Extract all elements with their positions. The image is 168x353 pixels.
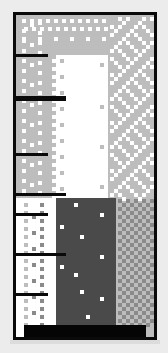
dither-pixel [22, 19, 26, 23]
dither-pixel [114, 173, 118, 177]
dither-pixel [52, 159, 56, 163]
dither-pixel [154, 53, 157, 57]
dither-pixel [110, 177, 114, 181]
dither-pixel [40, 227, 44, 231]
dither-pixel [154, 259, 157, 263]
dither-pixel [56, 27, 60, 31]
dither-pixel [114, 125, 118, 129]
dither-pixel [154, 21, 157, 25]
dither-pixel [94, 19, 98, 23]
dither-pixel [22, 119, 26, 123]
dither-pixel [64, 27, 68, 31]
dither-pixel [60, 107, 64, 111]
dither-pixel [154, 299, 157, 303]
sparkle-pixel [80, 235, 84, 239]
dither-pixel [154, 85, 157, 89]
dither-pixel [126, 65, 130, 69]
dither-pixel [146, 45, 150, 49]
dither-pixel [154, 291, 157, 295]
dither-pixel [118, 169, 122, 173]
dither-pixel [86, 19, 90, 23]
dither-pixel [40, 275, 44, 279]
dither-pixel [154, 37, 157, 41]
dither-pixel [40, 299, 44, 303]
dither-pixel [38, 81, 42, 85]
dither-pixel [38, 61, 42, 65]
dither-pixel [38, 19, 42, 23]
dither-pixel [142, 49, 146, 53]
dither-pixel [150, 89, 154, 93]
dither-pixel [52, 63, 56, 67]
dither-pixel [46, 19, 50, 23]
dither-pixel [52, 183, 56, 187]
dither-pixel [118, 41, 122, 45]
dither-pixel [118, 89, 122, 93]
dither-pixel [126, 161, 130, 165]
dither-pixel [122, 117, 126, 121]
dither-pixel [60, 155, 64, 159]
dither-pixel [134, 25, 138, 29]
dither-pixel [110, 49, 114, 53]
dither-pixel [52, 119, 56, 123]
dither-pixel [80, 27, 84, 31]
dither-pixel [30, 123, 34, 127]
dither-pixel [22, 79, 26, 83]
dither-pixel [126, 113, 130, 117]
dither-pixel [138, 149, 142, 153]
dither-pixel [24, 283, 28, 287]
dither-pixel [38, 141, 42, 145]
dither-pixel [60, 91, 64, 95]
dither-pixel [150, 41, 154, 45]
dither-pixel [154, 307, 157, 311]
dither-pixel [30, 63, 34, 67]
dither-pixel [38, 41, 42, 45]
dither-pixel [86, 37, 90, 41]
dither-pixel [52, 143, 56, 147]
dither-pixel [40, 259, 44, 263]
dither-pixel [52, 151, 56, 155]
dither-pixel [38, 101, 42, 105]
dither-pixel [54, 19, 58, 23]
dither-pixel [126, 17, 130, 21]
dither-pixel [146, 141, 150, 145]
dither-pixel [52, 167, 56, 171]
dither-pixel [154, 117, 157, 121]
dither-pixel [32, 231, 36, 235]
dither-pixel [60, 123, 64, 127]
dither-pixel [40, 235, 44, 239]
dither-pixel [32, 279, 36, 283]
dither-pixel [24, 267, 28, 271]
dither-pixel [38, 91, 42, 95]
dither-pixel [24, 259, 28, 263]
dither-pixel [102, 19, 106, 23]
dither-pixel [150, 137, 154, 141]
dither-pixel [22, 139, 26, 143]
dither-pixel [118, 137, 122, 141]
dither-pixel [134, 153, 138, 157]
dither-pixel [134, 73, 138, 77]
dither-pixel [154, 251, 157, 255]
sparkle-pixel [100, 297, 104, 301]
dither-pixel [30, 183, 34, 187]
ledge-3 [16, 153, 48, 156]
dither-pixel [40, 219, 44, 223]
dither-pixel [154, 275, 157, 279]
game-well [13, 12, 157, 340]
dither-pixel [60, 75, 64, 79]
dither-pixel [38, 181, 42, 185]
dither-pixel [154, 283, 157, 287]
dither-pixel [118, 25, 122, 29]
ledge-7 [16, 293, 48, 296]
dither-pixel [40, 243, 44, 247]
sparkle-pixel [100, 255, 104, 259]
dither-pixel [134, 105, 138, 109]
ledge-1 [16, 54, 48, 57]
dither-pixel [142, 113, 146, 117]
dither-pixel [30, 143, 34, 147]
dither-pixel [52, 127, 56, 131]
dither-pixel [130, 61, 134, 65]
dither-pixel [52, 71, 56, 75]
dither-pixel [30, 83, 34, 87]
dither-pixel [24, 203, 28, 207]
dither-pixel [60, 139, 64, 143]
